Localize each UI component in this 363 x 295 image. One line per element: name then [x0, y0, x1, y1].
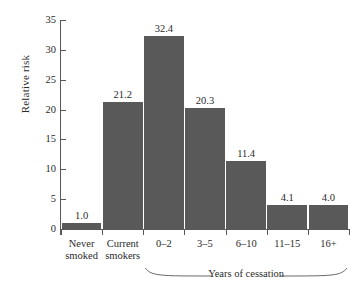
x-category-line: smokers: [96, 250, 149, 262]
y-tick-mark: [61, 50, 66, 51]
bar: [309, 205, 349, 229]
x-tick-mark: [61, 230, 62, 235]
x-tick-mark: [308, 230, 309, 235]
y-axis-ticks: 05101520253035: [0, 0, 56, 295]
y-tick-label: 30: [22, 45, 56, 55]
bar-value-label: 4.1: [267, 192, 308, 203]
x-tick-mark: [143, 230, 144, 235]
x-tick-mark: [267, 230, 268, 235]
y-tick-label: 20: [22, 105, 56, 115]
cessation-group-label: Years of cessation: [186, 268, 306, 279]
bar: [185, 108, 225, 229]
bar-value-label: 21.2: [102, 89, 143, 100]
y-tick-label: 15: [22, 134, 56, 144]
y-tick-mark: [61, 20, 66, 21]
y-tick-label: 0: [22, 224, 56, 234]
x-tick-mark: [226, 230, 227, 235]
x-category-label: 16+: [302, 238, 355, 250]
bar: [103, 102, 143, 229]
x-tick-mark: [184, 230, 185, 235]
y-tick-label: 25: [22, 75, 56, 85]
bar: [226, 161, 266, 229]
x-axis-line: [60, 229, 350, 230]
bar-value-label: 11.4: [226, 148, 267, 159]
bar-value-label: 1.0: [61, 210, 102, 221]
y-tick-label: 35: [22, 15, 56, 25]
y-tick-mark: [61, 139, 66, 140]
x-tick-mark: [102, 230, 103, 235]
y-tick-mark: [61, 169, 66, 170]
bar: [144, 36, 184, 229]
y-tick-label: 10: [22, 164, 56, 174]
bar: [62, 223, 102, 229]
y-tick-mark: [61, 110, 66, 111]
bar-value-label: 32.4: [143, 23, 184, 34]
y-tick-label: 5: [22, 194, 56, 204]
bar-value-label: 20.3: [184, 95, 225, 106]
y-tick-mark: [61, 229, 66, 230]
bar: [267, 205, 307, 229]
chart-figure: Relative risk 05101520253035 Neversmoked…: [0, 0, 363, 295]
bar-value-label: 4.0: [308, 192, 349, 203]
x-category-line: 16+: [302, 238, 355, 250]
y-tick-mark: [61, 199, 66, 200]
y-tick-mark: [61, 80, 66, 81]
x-tick-mark: [349, 230, 350, 235]
